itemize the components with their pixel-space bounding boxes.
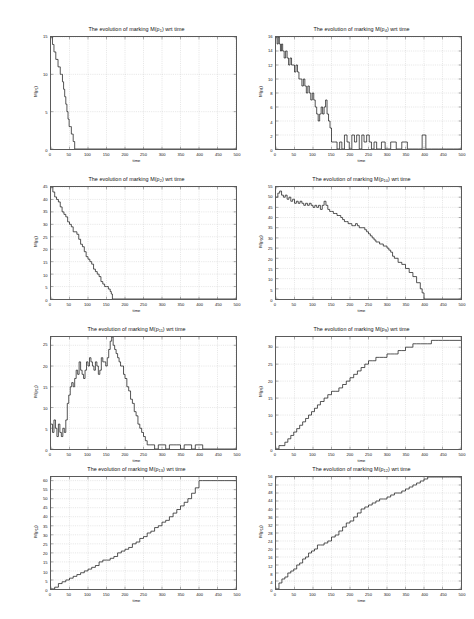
x-tick-label: 250 xyxy=(140,452,147,457)
y-tick-label: 50 xyxy=(255,194,273,199)
x-axis-label: time xyxy=(30,598,243,603)
chart-panel-p10: The evolution of marking M(p10) wrt time… xyxy=(255,176,468,326)
x-tick-label: 200 xyxy=(121,152,128,157)
y-tick-label: 0 xyxy=(255,588,273,593)
plot-area-p10 xyxy=(275,186,462,300)
y-tick-label: 10 xyxy=(255,277,273,282)
x-tick-label: 450 xyxy=(440,152,447,157)
x-tick-label: 250 xyxy=(365,152,372,157)
y-tick-label: 15 xyxy=(30,560,48,565)
x-tick-label: 150 xyxy=(103,452,110,457)
x-tick-label: 0 xyxy=(274,452,276,457)
y-axis-label-p10: M(p10) xyxy=(258,222,263,262)
y-tick-label: 2 xyxy=(255,133,273,138)
x-tick-label: 250 xyxy=(365,452,372,457)
x-tick-label: 100 xyxy=(84,452,91,457)
chart-panel-p12: The evolution of marking M(p12) wrt time… xyxy=(255,466,468,616)
chart-panel-p11: The evolution of marking M(p11) wrt time… xyxy=(30,326,243,476)
x-tick-label: 450 xyxy=(215,152,222,157)
y-tick-label: 12 xyxy=(255,62,273,67)
x-tick-label: 500 xyxy=(234,452,241,457)
x-tick-label: 450 xyxy=(215,592,222,597)
y-axis-label-p2: M(p2) xyxy=(33,222,38,262)
y-axis-label-p11: M(p11) xyxy=(33,372,38,412)
y-tick-label: 0 xyxy=(30,148,48,153)
x-tick-label: 350 xyxy=(402,452,409,457)
x-tick-label: 0 xyxy=(274,592,276,597)
y-tick-label: 25 xyxy=(30,342,48,347)
x-tick-label: 500 xyxy=(459,452,466,457)
chart-title-p9: The evolution of marking M(p9) wrt time xyxy=(255,326,468,333)
chart-panel-p1: The evolution of marking M(p1) wrt time0… xyxy=(30,26,243,176)
y-tick-label: 10 xyxy=(30,569,48,574)
x-tick-label: 50 xyxy=(291,452,296,457)
x-tick-label: 150 xyxy=(103,592,110,597)
x-tick-label: 350 xyxy=(402,592,409,597)
chart-title-p10: The evolution of marking M(p10) wrt time xyxy=(255,176,468,183)
x-tick-label: 350 xyxy=(402,302,409,307)
y-tick-label: 40 xyxy=(255,506,273,511)
plot-area-p9 xyxy=(275,336,462,450)
y-tick-label: 50 xyxy=(30,496,48,501)
x-tick-label: 500 xyxy=(459,302,466,307)
x-tick-label: 350 xyxy=(177,302,184,307)
x-tick-label: 500 xyxy=(459,152,466,157)
y-axis-label-p13: M(p13) xyxy=(33,512,38,552)
y-tick-label: 10 xyxy=(255,413,273,418)
x-tick-label: 0 xyxy=(49,302,51,307)
x-tick-label: 200 xyxy=(346,452,353,457)
plot-area-p2 xyxy=(50,186,237,300)
y-tick-label: 0 xyxy=(30,588,48,593)
x-tick-label: 100 xyxy=(309,592,316,597)
x-tick-label: 0 xyxy=(49,452,51,457)
x-axis-label: time xyxy=(30,458,243,463)
x-tick-label: 0 xyxy=(49,152,51,157)
chart-title-p13: The evolution of marking M(p13) wrt time xyxy=(30,466,243,473)
chart-panel-p2: The evolution of marking M(p2) wrt time0… xyxy=(30,176,243,326)
plot-area-p11 xyxy=(50,336,237,450)
x-tick-label: 50 xyxy=(66,452,71,457)
x-tick-label: 150 xyxy=(328,302,335,307)
chart-title-p4: The evolution of marking M(p4) wrt time xyxy=(255,26,468,33)
x-tick-label: 400 xyxy=(196,592,203,597)
y-axis-label-p9: M(p9) xyxy=(258,372,263,412)
y-tick-label: 4 xyxy=(255,119,273,124)
x-tick-label: 50 xyxy=(291,592,296,597)
y-tick-label: 52 xyxy=(255,482,273,487)
y-tick-label: 5 xyxy=(255,287,273,292)
x-tick-label: 50 xyxy=(291,152,296,157)
x-tick-label: 400 xyxy=(196,302,203,307)
x-tick-label: 150 xyxy=(328,592,335,597)
plot-area-p12 xyxy=(275,476,462,590)
x-tick-label: 250 xyxy=(140,152,147,157)
chart-panel-p9: The evolution of marking M(p9) wrt time0… xyxy=(255,326,468,476)
x-tick-label: 350 xyxy=(177,152,184,157)
x-axis-label: time xyxy=(30,158,243,163)
x-tick-label: 350 xyxy=(177,452,184,457)
plot-area-p1 xyxy=(50,36,237,150)
x-tick-label: 100 xyxy=(84,302,91,307)
chart-title-p11: The evolution of marking M(p11) wrt time xyxy=(30,326,243,333)
y-tick-label: 16 xyxy=(255,34,273,39)
y-tick-label: 60 xyxy=(30,477,48,482)
x-tick-label: 450 xyxy=(440,592,447,597)
x-tick-label: 300 xyxy=(159,592,166,597)
x-tick-label: 400 xyxy=(421,152,428,157)
x-tick-label: 300 xyxy=(384,152,391,157)
y-tick-label: 40 xyxy=(255,215,273,220)
x-tick-label: 350 xyxy=(177,592,184,597)
x-tick-label: 350 xyxy=(402,152,409,157)
x-tick-label: 200 xyxy=(121,452,128,457)
x-tick-label: 100 xyxy=(309,152,316,157)
y-tick-label: 25 xyxy=(255,361,273,366)
x-tick-label: 300 xyxy=(384,592,391,597)
y-tick-label: 55 xyxy=(30,486,48,491)
y-tick-label: 0 xyxy=(255,148,273,153)
x-axis-label: time xyxy=(30,308,243,313)
x-tick-label: 200 xyxy=(346,152,353,157)
x-tick-label: 250 xyxy=(365,592,372,597)
x-tick-label: 150 xyxy=(328,152,335,157)
x-tick-label: 100 xyxy=(309,302,316,307)
x-tick-label: 150 xyxy=(103,302,110,307)
x-tick-label: 250 xyxy=(365,302,372,307)
